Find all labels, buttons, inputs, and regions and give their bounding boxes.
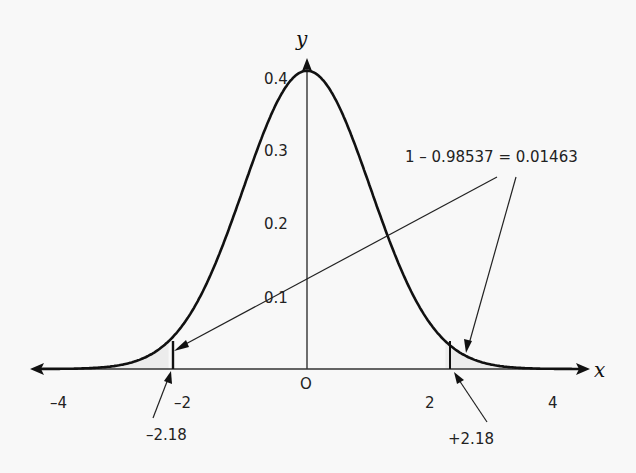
y-axis-label: y — [295, 27, 308, 51]
pos-cutoff-label: +2.18 — [448, 430, 494, 448]
arrowhead-icon — [454, 372, 464, 384]
chart-canvas: y x 0.4 0.3 0.2 0.1 –4 –2 O 2 4 –2.18 +2… — [0, 0, 636, 473]
origin-label: O — [300, 375, 312, 393]
x-tick-neg4: –4 — [50, 394, 67, 412]
tail-probability-annotation: 1 – 0.98537 = 0.01463 — [405, 148, 578, 166]
normal-curve — [40, 71, 580, 369]
annotation-arrows — [153, 177, 516, 422]
y-tick-0.1: 0.1 — [264, 289, 288, 307]
arrowhead-icon — [464, 339, 472, 353]
x-tick-2: 2 — [425, 394, 435, 412]
y-tick-0.3: 0.3 — [264, 142, 288, 160]
x-tick-4: 4 — [548, 394, 558, 412]
neg-cutoff-label: –2.18 — [146, 426, 187, 444]
arrowhead-icon — [174, 340, 189, 351]
y-tick-0.4: 0.4 — [264, 70, 288, 88]
normal-distribution-chart: y x 0.4 0.3 0.2 0.1 –4 –2 O 2 4 –2.18 +2… — [0, 0, 636, 473]
x-axis-label: x — [594, 358, 605, 382]
arrowhead-icon — [164, 371, 172, 384]
y-axis — [302, 58, 312, 369]
y-tick-0.2: 0.2 — [264, 215, 288, 233]
x-tick-neg2: –2 — [174, 394, 191, 412]
